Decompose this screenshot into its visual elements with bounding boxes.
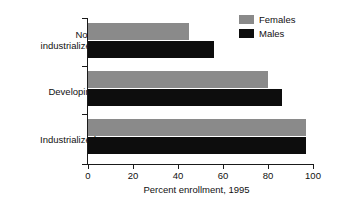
bar-females-non-industrialized [88,23,189,40]
legend-label-males: Males [259,28,284,39]
x-tick-mark [88,164,89,169]
x-tick-label: 80 [253,170,283,181]
x-tick-label: 40 [163,170,193,181]
x-tick-mark [268,164,269,169]
category-label-industrialized: Industrialized [10,134,96,145]
x-tick-mark [133,164,134,169]
x-tick-mark [313,164,314,169]
bar-chart: Non- industrialized Developing Industria… [0,0,349,203]
bar-females-industrialized [88,119,306,136]
bar-females-developing [88,71,268,88]
y-tick-mark [82,164,87,165]
category-label-non-industrialized: Non- industrialized [10,29,96,51]
legend-item-females: Females [239,13,295,25]
x-tick-mark [223,164,224,169]
y-tick-mark [82,114,87,115]
legend-label-females: Females [259,14,295,25]
legend-item-males: Males [239,27,295,39]
males-swatch-icon [239,29,254,38]
females-swatch-icon [239,15,254,24]
x-axis-line [87,164,314,165]
x-tick-mark [178,164,179,169]
bar-males-industrialized [88,137,306,154]
x-tick-label: 100 [298,170,328,181]
x-tick-label: 0 [73,170,103,181]
x-tick-label: 20 [118,170,148,181]
legend: Females Males [239,13,295,41]
category-label-developing: Developing [10,86,96,97]
bar-males-developing [88,89,282,106]
x-tick-label: 60 [208,170,238,181]
y-tick-mark [82,18,87,19]
x-axis-title: Percent enrollment, 1995 [0,184,349,195]
y-tick-mark [82,66,87,67]
bar-males-non-industrialized [88,41,214,58]
